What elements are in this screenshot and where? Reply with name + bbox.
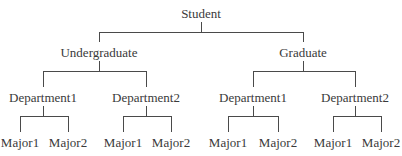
node-major1-label: Major1 (1, 135, 39, 150)
node-graduate-label: Graduate (279, 45, 327, 60)
node-student-label: Student (181, 6, 221, 21)
node-major1-label: Major1 (209, 135, 247, 150)
node-department2-label: Department2 (321, 90, 389, 105)
node-major2-label: Major2 (362, 135, 400, 150)
node-department2-label: Department2 (112, 90, 180, 105)
node-department1-label: Department1 (219, 90, 287, 105)
node-undergraduate-label: Undergraduate (60, 45, 137, 60)
student-hierarchy-tree: StudentUndergraduateDepartment1Major1Maj… (0, 0, 402, 156)
tree-connectors (21, 22, 383, 132)
node-major2-label: Major2 (49, 135, 87, 150)
node-major1-label: Major1 (104, 135, 142, 150)
node-major1-label: Major1 (314, 135, 352, 150)
node-major2-label: Major2 (259, 135, 297, 150)
node-major2-label: Major2 (152, 135, 190, 150)
node-department1-label: Department1 (9, 90, 77, 105)
tree-nodes: StudentUndergraduateDepartment1Major1Maj… (1, 6, 400, 150)
